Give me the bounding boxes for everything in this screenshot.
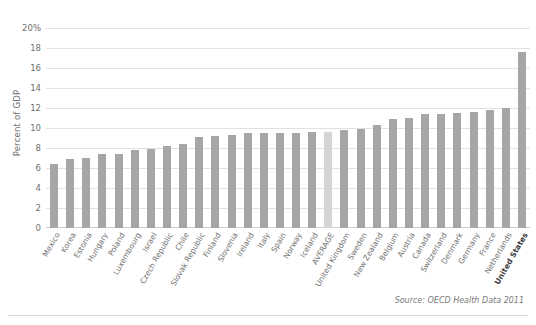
bar [195, 137, 203, 228]
bar [518, 52, 526, 228]
bar-slot: Czech Republic [159, 28, 175, 228]
bar-slot: Canada [417, 28, 433, 228]
bar [179, 144, 187, 228]
bar [50, 164, 58, 228]
bar-slot: New Zealand [369, 28, 385, 228]
y-tick-label: 18 [30, 43, 41, 53]
bar-slot: Germany [465, 28, 481, 228]
y-tick-label: 10 [30, 123, 41, 133]
bar [276, 133, 284, 228]
bar-slot: Israel [143, 28, 159, 228]
bar [308, 132, 316, 228]
bar-slot: Switzerland [433, 28, 449, 228]
y-tick-label: 0 [36, 223, 41, 233]
bar [244, 133, 252, 228]
bar [147, 149, 155, 228]
bar-slot: AVERAGE [320, 28, 336, 228]
bar [389, 119, 397, 228]
y-tick-label: 6 [36, 163, 41, 173]
y-tick-label: 8 [36, 143, 41, 153]
bar [470, 112, 478, 228]
bar [357, 129, 365, 228]
bottom-divider [8, 315, 528, 316]
bar-slot: France [482, 28, 498, 228]
x-tick-label: Mexico [41, 231, 62, 258]
bar-slot: Norway [288, 28, 304, 228]
bar [115, 154, 123, 228]
bar-slot: Denmark [449, 28, 465, 228]
y-tick-label: 2 [36, 203, 41, 213]
bar-slot: Hungary [94, 28, 110, 228]
bar [421, 114, 429, 228]
bar-slot: Belgium [385, 28, 401, 228]
bar-slot: Slovak Republic [191, 28, 207, 228]
bar [437, 114, 445, 228]
bar [82, 158, 90, 228]
bar [324, 132, 332, 228]
bar-slot: United Kingdom [336, 28, 352, 228]
bar-slot: Netherlands [498, 28, 514, 228]
bar-slot: United States [514, 28, 530, 228]
y-tick-label: 20% [22, 23, 41, 33]
bar-slot: Mexico [46, 28, 62, 228]
bar [453, 113, 461, 228]
bar [373, 125, 381, 228]
bar-series: MexicoKoreaEstoniaHungaryPolandLuxembour… [46, 28, 530, 228]
bar [66, 159, 74, 228]
bar-slot: Finland [207, 28, 223, 228]
bar [405, 118, 413, 228]
bar-slot: Ireland [240, 28, 256, 228]
bar [98, 154, 106, 228]
bar [131, 150, 139, 228]
y-tick-label: 12 [30, 103, 41, 113]
bar-slot: Iceland [304, 28, 320, 228]
y-tick-label: 14 [30, 83, 41, 93]
bar [260, 133, 268, 228]
bar [163, 146, 171, 228]
bar-slot: Estonia [78, 28, 94, 228]
bar [340, 130, 348, 228]
bar-slot: Spain [272, 28, 288, 228]
bar [486, 110, 494, 228]
bar-slot: Sweden [353, 28, 369, 228]
bar [228, 135, 236, 228]
bar-slot: Slovenia [223, 28, 239, 228]
source-note: Source: OECD Health Data 2011 [395, 296, 524, 305]
y-tick-label: 16 [30, 63, 41, 73]
y-axis-title: Percent of GDP [12, 68, 22, 178]
x-tick-label: Italy [256, 231, 272, 250]
y-tick-label: 4 [36, 183, 41, 193]
bar [211, 136, 219, 228]
bar-slot: Korea [62, 28, 78, 228]
bar-slot: Italy [256, 28, 272, 228]
bar [292, 133, 300, 228]
bar-slot: Luxembourg [127, 28, 143, 228]
plot-area: 20%181614121086420 MexicoKoreaEstoniaHun… [46, 28, 530, 228]
bar-slot: Chile [175, 28, 191, 228]
bar [502, 108, 510, 228]
bar-slot: Poland [111, 28, 127, 228]
chart-figure: Percent of GDP 20%181614121086420 Mexico… [0, 0, 536, 325]
bar-slot: Austria [401, 28, 417, 228]
